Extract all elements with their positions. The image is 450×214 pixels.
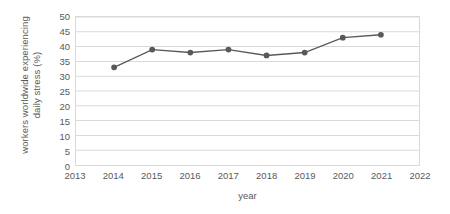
line-chart: workers worldwide experiencing daily str… [0, 0, 450, 214]
x-axis-title: year [75, 190, 420, 201]
y-axis-tick: 20 [59, 101, 70, 112]
data-point-marker [111, 64, 117, 70]
data-point-marker [378, 32, 384, 38]
x-axis-tick: 2015 [141, 170, 162, 181]
data-point-marker [302, 50, 308, 56]
x-axis-tick-labels: 2013201420152016201720182019202020212022 [75, 170, 420, 186]
x-axis-tick: 2022 [409, 170, 430, 181]
y-axis-tick: 35 [59, 56, 70, 67]
y-axis-title-line-2: daily stress (%) [31, 52, 43, 119]
series-markers [111, 32, 384, 70]
y-axis-tick: 30 [59, 71, 70, 82]
x-axis-tick: 2019 [294, 170, 315, 181]
x-axis-tick: 2018 [256, 170, 277, 181]
x-axis-tick: 2017 [218, 170, 239, 181]
y-axis-title-line-1: workers worldwide experiencing [19, 16, 31, 154]
data-point-marker [149, 47, 155, 53]
y-axis-tick: 45 [59, 26, 70, 37]
x-axis-tick: 2020 [333, 170, 354, 181]
plot-svg [76, 17, 419, 165]
data-point-marker [226, 47, 232, 53]
y-axis-tick: 5 [65, 146, 70, 157]
y-axis-tick-labels: 05101520253035404550 [48, 16, 70, 166]
x-axis-tick: 2014 [103, 170, 124, 181]
data-point-marker [187, 50, 193, 56]
x-axis-tick: 2021 [371, 170, 392, 181]
y-axis-tick: 40 [59, 41, 70, 52]
y-axis-tick: 15 [59, 116, 70, 127]
data-point-marker [340, 35, 346, 41]
x-axis-tick: 2013 [64, 170, 85, 181]
y-axis-tick: 25 [59, 86, 70, 97]
y-axis-title: workers worldwide experiencing daily str… [14, 0, 48, 170]
data-point-marker [264, 53, 270, 59]
x-axis-tick: 2016 [179, 170, 200, 181]
y-axis-tick: 50 [59, 11, 70, 22]
plot-area [75, 16, 420, 166]
y-axis-tick: 10 [59, 131, 70, 142]
gridlines [76, 17, 419, 150]
